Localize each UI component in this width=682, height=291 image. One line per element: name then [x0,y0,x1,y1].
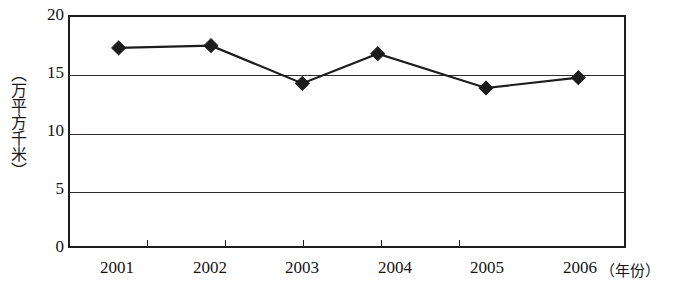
x-tick-label-2001: 2001 [100,258,134,278]
data-point-marker [371,47,385,61]
y-tick-label-15: 15 [22,63,64,83]
data-point-marker [571,71,585,85]
data-point-marker [295,76,309,90]
plot-area [68,15,626,248]
y-tick-label-5: 5 [22,179,64,199]
x-tick-label-2002: 2002 [193,258,227,278]
data-point-marker [204,39,218,53]
x-axis-title: （年份） [600,259,660,280]
data-series-svg [70,17,624,246]
x-tick-label-2004: 2004 [378,258,412,278]
y-tick-label-0: 0 [22,237,64,257]
x-tick-label-2005: 2005 [470,258,504,278]
y-tick-label-20: 20 [22,5,64,25]
data-point-marker [479,81,493,95]
data-point-marker [112,41,126,55]
y-tick-label-10: 10 [22,121,64,141]
series-line [119,46,579,88]
x-tick-label-2006: 2006 [563,258,597,278]
x-axis-tick-labels: 2001 2002 2003 2004 2005 2006 [0,258,682,288]
line-chart-figure: （万平方千米） 20 15 10 5 0 2001 2002 2003 2004… [0,0,682,291]
y-axis-tick-labels: 20 15 10 5 0 [18,0,64,291]
x-tick-label-2003: 2003 [285,258,319,278]
